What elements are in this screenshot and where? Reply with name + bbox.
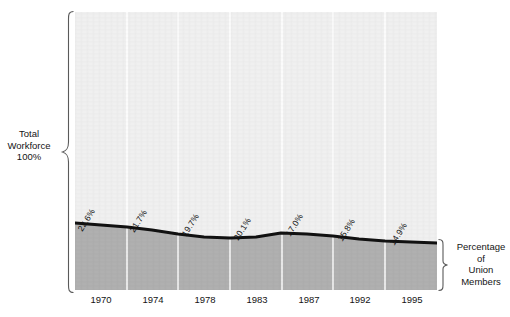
year-label-1992: 1992 <box>334 294 386 305</box>
total-workforce-label-line3: 100% <box>0 151 58 163</box>
union-members-label-line3: Union <box>452 264 510 276</box>
union-members-brace-icon <box>437 238 451 292</box>
year-label-1974: 1974 <box>127 294 179 305</box>
year-label-1970: 1970 <box>75 294 127 305</box>
year-label-1987: 1987 <box>283 294 335 305</box>
year-label-1978: 1978 <box>179 294 231 305</box>
union-members-label-line1: Percentage <box>452 241 510 253</box>
total-workforce-label: Total Workforce 100% <box>0 128 58 163</box>
chart-figure: Total Workforce 100% 22.6% 21.7% <box>0 0 510 317</box>
year-label-1983: 1983 <box>231 294 283 305</box>
union-members-label-line4: Members <box>452 276 510 288</box>
area-chart-svg <box>75 12 437 290</box>
union-members-label-line2: of <box>452 253 510 265</box>
union-members-label: Percentage of Union Members <box>452 241 510 287</box>
total-workforce-brace-icon <box>60 10 76 294</box>
year-label-1995: 1995 <box>386 294 438 305</box>
total-workforce-label-line2: Workforce <box>0 140 58 152</box>
plot-area <box>75 12 437 290</box>
total-workforce-label-line1: Total <box>0 128 58 140</box>
